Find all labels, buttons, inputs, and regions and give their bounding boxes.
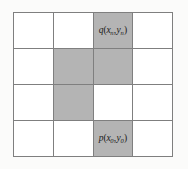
grid-cell-r3c2: p(x0,y0) <box>94 121 133 156</box>
grid-cell-r3c0 <box>14 121 53 156</box>
grid-cell-r1c0 <box>14 49 53 84</box>
endpoint-label-q: q(xn,yn) <box>99 26 127 36</box>
figure-container: q(xn,yn) p(x0,y0) <box>0 0 188 169</box>
grid-cell-r0c3 <box>133 13 172 48</box>
grid-cell-r1c1 <box>54 49 93 84</box>
grid-cell-r2c3 <box>133 85 172 120</box>
label-p-close-paren: ) <box>124 133 127 143</box>
grid-cell-r0c0 <box>14 13 53 48</box>
label-q-y-subscript: n <box>120 29 123 36</box>
pixel-grid: q(xn,yn) p(x0,y0) <box>13 12 173 157</box>
label-q-x-subscript: n <box>110 29 113 36</box>
grid-cell-r1c2 <box>94 49 133 84</box>
grid-cell-r0c2: q(xn,yn) <box>94 13 133 48</box>
endpoint-label-p: p(x0,y0) <box>99 134 127 144</box>
grid-cell-r2c2 <box>94 85 133 120</box>
grid-cell-r2c1 <box>54 85 93 120</box>
grid-cell-r3c3 <box>133 121 172 156</box>
grid-cell-r1c3 <box>133 49 172 84</box>
label-p-y-subscript: 0 <box>120 137 123 144</box>
label-p-x-subscript: 0 <box>110 137 113 144</box>
grid-cell-r3c1 <box>54 121 93 156</box>
grid-cell-r2c0 <box>14 85 53 120</box>
label-q-close-paren: ) <box>124 25 127 35</box>
grid-cell-r0c1 <box>54 13 93 48</box>
